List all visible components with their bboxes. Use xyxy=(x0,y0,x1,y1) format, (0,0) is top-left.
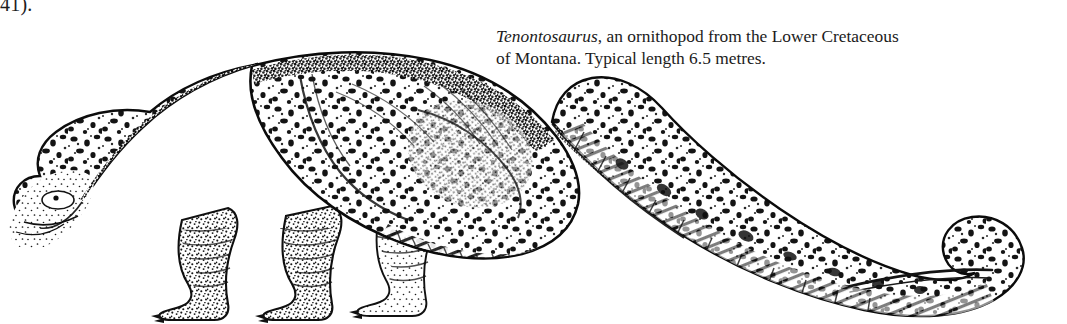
dinosaur-body-group xyxy=(0,52,1024,324)
tenontosaurus-illustration xyxy=(0,14,1067,324)
tenontosaurus-engraving-svg xyxy=(0,14,1067,324)
book-page-figure: 41). Tenontosaurus, an ornithopod from t… xyxy=(0,0,1067,324)
